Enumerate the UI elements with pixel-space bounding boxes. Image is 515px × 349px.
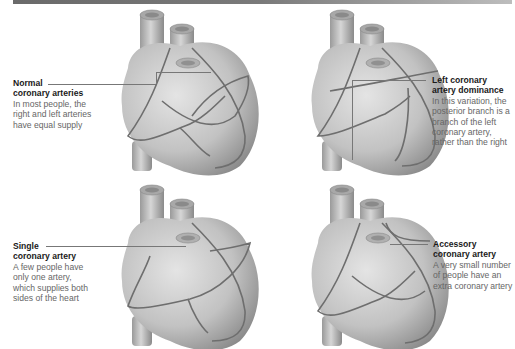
label-single-desc-1: A few people have (13, 262, 123, 272)
leader-line-left-dominance (352, 80, 426, 81)
label-normal-title-1: Normal (13, 78, 133, 88)
label-left-dominance-title-1: Left coronary (432, 75, 514, 85)
leader-line-left-dominance-vertical (352, 80, 353, 160)
label-accessory: Accessory coronary artery A very small n… (433, 239, 515, 291)
label-accessory-desc-2: of people have an (433, 270, 515, 280)
label-single: Single coronary artery A few people have… (13, 241, 123, 303)
label-left-dominance-desc-1: In this variation, the (432, 96, 514, 106)
label-single-title-1: Single (13, 241, 123, 251)
label-normal-desc-3: have equal supply (13, 120, 133, 130)
label-single-desc-3: which supplies both (13, 283, 123, 293)
label-left-dominance-desc-5: rather than the right (432, 137, 514, 147)
leader-line-accessory (390, 244, 428, 245)
label-accessory-title-2: coronary artery (433, 249, 515, 259)
label-normal-title-2: coronary arteries (13, 88, 133, 98)
top-divider-bar (13, 0, 512, 4)
heart-illustration-single (100, 181, 275, 349)
leader-line-normal-top (156, 72, 211, 73)
label-normal-desc-2: right and left arteries (13, 109, 133, 119)
label-single-desc-2: only one artery, (13, 272, 123, 282)
label-left-dominance-desc-2: posterior branch is a (432, 106, 514, 116)
leader-line-normal-vertical (156, 72, 157, 84)
label-accessory-desc-3: extra coronary artery (433, 281, 515, 291)
label-left-dominance-desc-3: branch of the left (432, 117, 514, 127)
label-accessory-title-1: Accessory (433, 239, 515, 249)
label-left-dominance-title-2: artery dominance (432, 85, 514, 95)
label-left-dominance-desc-4: coronary artery, (432, 127, 514, 137)
label-normal-desc-1: In most people, the (13, 99, 133, 109)
label-left-dominance: Left coronary artery dominance In this v… (432, 75, 514, 148)
label-single-title-2: coronary artery (13, 251, 123, 261)
label-accessory-desc-1: A very small number (433, 260, 515, 270)
label-single-desc-4: sides of the heart (13, 293, 123, 303)
label-normal: Normal coronary arteries In most people,… (13, 78, 133, 130)
